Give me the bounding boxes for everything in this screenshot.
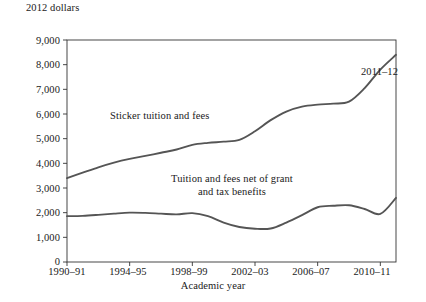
series-label-net-tuition-line2: and tax benefits [157,186,307,199]
series-label-sticker-tuition: Sticker tuition and fees [110,110,210,123]
y-tick-label-8000: 8,000 [14,60,60,71]
x-tick-label-1994-95: 1994–95 [93,267,163,278]
series-line-1 [67,198,396,229]
x-tick-label-2006-07: 2006–07 [276,267,346,278]
y-tick-label-9000: 9,000 [14,36,60,47]
chart-plot-area [0,0,426,302]
annotation-2011-12: 2011–12 [361,66,398,79]
x-tick-label-2002-03: 2002–03 [215,267,285,278]
y-tick-label-7000: 7,000 [14,85,60,96]
x-tick-label-1990-91: 1990–91 [32,267,102,278]
x-tick-label-1998-99: 1998–99 [154,267,224,278]
chart-axes [63,40,396,266]
chart-figure: 2012 dollars Academic year 9,000 8,000 7… [0,0,426,302]
series-label-net-tuition-line1: Tuition and fees net of grant [157,173,307,186]
y-tick-label-6000: 6,000 [14,110,60,121]
y-tick-label-4000: 4,000 [14,159,60,170]
y-tick-label-1000: 1,000 [14,233,60,244]
x-axis-title: Academic year [0,280,426,291]
y-tick-label-3000: 3,000 [14,184,60,195]
y-tick-label-2000: 2,000 [14,208,60,219]
y-axis-title: 2012 dollars [26,2,79,13]
chart-series [67,55,396,229]
y-tick-label-5000: 5,000 [14,134,60,145]
x-tick-label-2010-11: 2010–11 [337,267,407,278]
